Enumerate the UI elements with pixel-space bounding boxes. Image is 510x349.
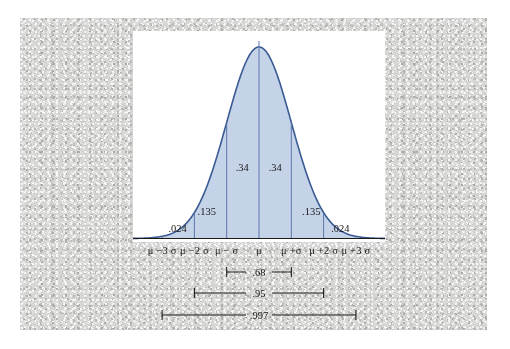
region-label-left-outer-tail: .024 bbox=[168, 223, 186, 234]
region-label-right-inner-band: .34 bbox=[269, 161, 282, 172]
x-axis-tick-label-5: μ +2 σ bbox=[309, 245, 338, 256]
x-axis-tick-label-4: μ +σ bbox=[281, 245, 302, 256]
x-axis-tick-label-1: μ −2 σ bbox=[180, 245, 209, 256]
region-label-left-mid-band: .135 bbox=[198, 205, 216, 216]
x-axis-tick-label-0: μ −3 σ bbox=[148, 245, 177, 256]
figure-canvas: μ −3 σμ −2 σμ − σμμ +σμ +2 σμ +3 σ .024.… bbox=[0, 0, 510, 349]
region-label-left-inner-band: .34 bbox=[236, 161, 249, 172]
bracket-label-two-sigma-interval: .95 bbox=[249, 288, 268, 299]
region-label-right-mid-band: .135 bbox=[302, 205, 320, 216]
bracket-label-three-sigma-interval: .997 bbox=[247, 310, 271, 321]
x-axis-tick-label-2: μ − σ bbox=[215, 245, 238, 256]
x-axis-tick-label-3: μ bbox=[256, 245, 262, 256]
x-axis-tick-label-6: μ +3 σ bbox=[341, 245, 370, 256]
bracket-label-one-sigma-interval: .68 bbox=[249, 267, 268, 278]
region-label-right-outer-tail: .024 bbox=[331, 223, 349, 234]
